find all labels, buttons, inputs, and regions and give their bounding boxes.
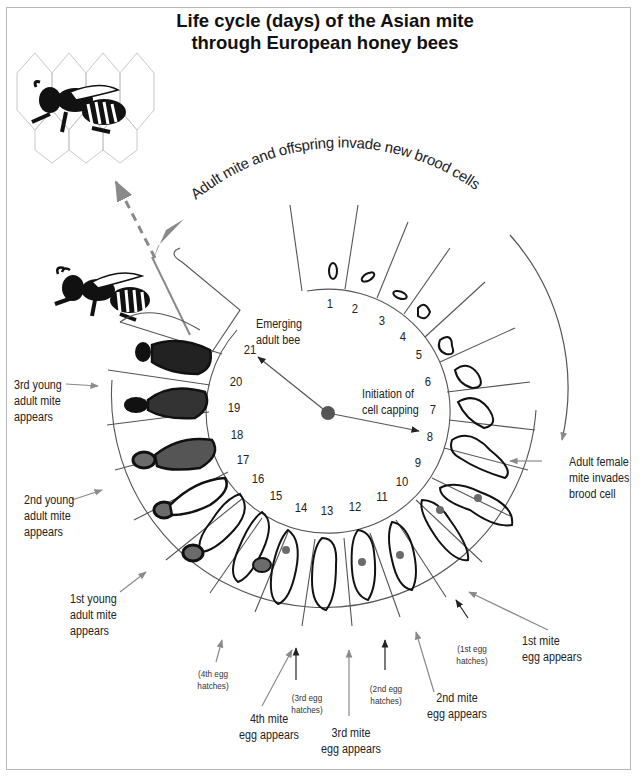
invasion-arc [510, 235, 568, 440]
day-4: 4 [400, 330, 406, 344]
third-young-adult-label: 3rd young adult mite appears [14, 377, 62, 425]
adult-bee-on-comb-icon [32, 82, 126, 132]
arc-caption: Adult mite and offspring invade new broo… [187, 134, 483, 203]
day-12: 12 [349, 500, 362, 514]
invade-arrowhead-icon [152, 219, 184, 262]
first-young-adult-label: 1st young adult mite appears [70, 591, 117, 639]
dashed-exit-arrow [116, 182, 155, 258]
fourth-egg-hatches-label: (4th egg hatches) [192, 668, 235, 692]
first-egg-hatches-label: (1st egg hatches) [450, 643, 495, 667]
day-6: 6 [425, 375, 431, 389]
emerging-bee-icon [55, 268, 150, 320]
third-egg-hatches-label: (3rd egg hatches) [286, 692, 329, 716]
day-14: 14 [295, 501, 308, 515]
center-hub [321, 406, 335, 420]
day-15: 15 [270, 489, 283, 503]
day-3: 3 [379, 314, 385, 328]
day-16: 16 [252, 472, 265, 486]
invade-arrow [152, 257, 190, 335]
day-18: 18 [231, 428, 244, 442]
first-mite-egg-label: 1st mite egg appears [522, 633, 582, 665]
second-young-adult-label: 2nd young adult mite appears [24, 492, 74, 540]
second-egg-hatches-label: (2nd egg hatches) [364, 683, 409, 707]
third-mite-egg-label: 3rd mite egg appears [312, 725, 389, 757]
day-11: 11 [376, 490, 388, 504]
day-2: 2 [352, 302, 358, 316]
day-17: 17 [237, 453, 250, 467]
day-7: 7 [430, 403, 436, 417]
day-8: 8 [427, 430, 433, 444]
second-mite-egg-label: 2nd mite egg appears [418, 690, 495, 722]
day-20: 20 [230, 375, 243, 389]
emerging-adult-bee-label: Emerging adult bee [256, 316, 302, 348]
day-13: 13 [321, 504, 334, 518]
day-1: 1 [327, 297, 333, 311]
day-9: 9 [415, 456, 421, 470]
day-19: 19 [228, 401, 241, 415]
day-21: 21 [244, 343, 257, 357]
adult-female-invades-label: Adult female mite invades brood cell [569, 454, 629, 502]
day-10: 10 [396, 475, 409, 489]
cell-capping-label: Initiation of cell capping [362, 386, 419, 418]
hatch-arrows [296, 600, 468, 680]
day-5: 5 [416, 348, 422, 362]
emerging-hand [258, 357, 328, 413]
